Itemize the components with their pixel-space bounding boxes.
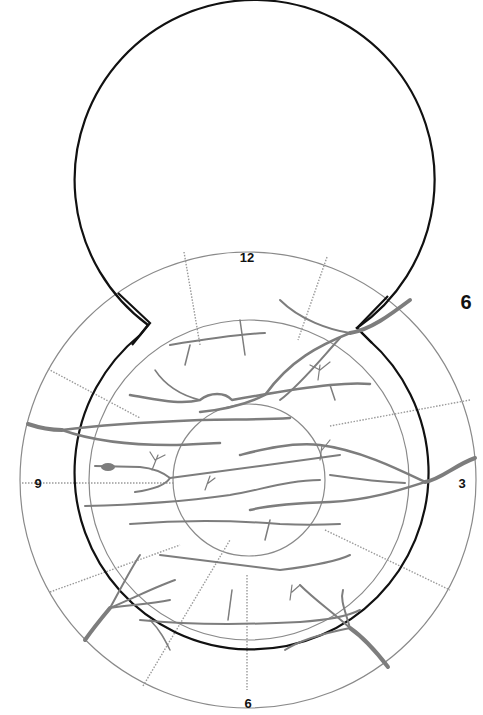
vessel — [280, 300, 350, 333]
vessel — [330, 475, 405, 483]
vessel — [85, 608, 110, 640]
notch-left — [118, 293, 150, 345]
vessel — [130, 521, 340, 525]
vessel — [240, 320, 245, 355]
vessel — [205, 476, 215, 490]
vessel — [425, 458, 475, 482]
clock-label-9: 9 — [34, 476, 41, 491]
vessel — [285, 628, 350, 650]
meridian-4 — [325, 530, 450, 590]
retinal-diagram: 12 3 6 9 6 — [0, 0, 483, 715]
vessel — [155, 370, 200, 400]
vessel — [150, 452, 165, 470]
vessel — [170, 333, 265, 345]
vessel — [330, 385, 335, 400]
vessel — [200, 333, 350, 412]
vessel — [28, 424, 62, 430]
vessel — [85, 480, 320, 506]
vessel — [310, 362, 330, 380]
vessel-bulb — [101, 463, 115, 471]
clock-label-6: 6 — [244, 696, 251, 711]
vessel — [160, 555, 350, 570]
meridian-3-upper — [330, 400, 470, 426]
vessel — [140, 610, 360, 624]
vessel — [350, 628, 388, 667]
vessel — [290, 585, 300, 600]
vessel — [170, 455, 340, 478]
clock-label-3: 3 — [458, 476, 465, 491]
vessel — [62, 418, 290, 430]
vessel — [110, 555, 140, 608]
vessel — [185, 345, 190, 365]
central-circle — [173, 404, 325, 556]
vessel — [62, 430, 220, 445]
keyhole-outline — [75, 0, 435, 649]
panel-label: 6 — [460, 291, 471, 313]
vessel — [228, 590, 232, 620]
meridian-12-right — [298, 257, 327, 340]
clock-label-12: 12 — [240, 250, 254, 265]
